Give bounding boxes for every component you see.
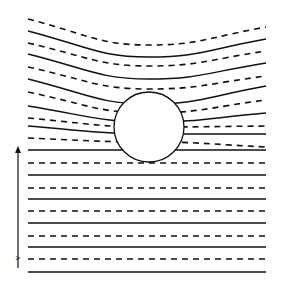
circular-obstacle bbox=[114, 92, 184, 162]
streamline-solid bbox=[28, 31, 266, 57]
flow-diagram: v bbox=[0, 0, 290, 282]
streamline-dashed bbox=[28, 67, 266, 89]
velocity-arrow bbox=[15, 146, 21, 268]
arrow-up-icon bbox=[15, 146, 21, 153]
velocity-label: v bbox=[12, 256, 22, 261]
streamline-diagram bbox=[0, 0, 290, 282]
